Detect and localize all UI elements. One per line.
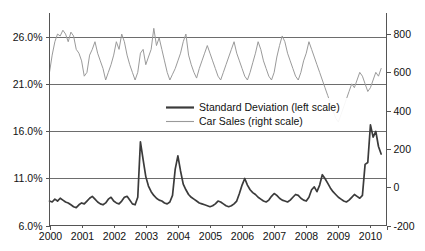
right-axis-tick-label: 800 [394, 28, 412, 40]
legend-label-car-sales: Car Sales (right scale) [199, 115, 303, 127]
x-axis-tick-label: 2010 [359, 230, 383, 242]
x-axis-tick-label: 2005 [199, 230, 223, 242]
chart-container: 6.0%11.0%16.0%21.0%26.0% -20002004006008… [0, 0, 425, 251]
x-axis-tick-label: 2007 [263, 230, 287, 242]
x-axis-tick-label: 2001 [71, 230, 95, 242]
right-axis-tick-label: 200 [394, 143, 412, 155]
right-axis-tick-label: 400 [394, 105, 412, 117]
x-axis-tick-label: 2004 [167, 230, 191, 242]
dual-axis-line-chart: 6.0%11.0%16.0%21.0%26.0% -20002004006008… [0, 0, 425, 251]
left-axis-tick-label: 26.0% [13, 31, 43, 43]
x-axis-tick-label: 2003 [135, 230, 159, 242]
right-axis-tick-label: 600 [394, 66, 412, 78]
x-axis-tick-label: 2000 [39, 230, 63, 242]
right-axis-tick-label: -200 [394, 220, 415, 232]
legend: Standard Deviation (left scale) Car Sale… [160, 98, 350, 128]
x-axis-labels-group: 2000200120022003200420052006200720082009… [39, 230, 383, 242]
x-axis-tick-label: 2002 [103, 230, 127, 242]
x-axis-tick-label: 2006 [231, 230, 255, 242]
legend-label-standard-deviation: Standard Deviation (left scale) [199, 101, 340, 113]
right-axis-tick-label: 0 [394, 181, 400, 193]
x-axis-tick-label: 2008 [295, 230, 319, 242]
x-axis-tick-label: 2009 [327, 230, 351, 242]
left-axis-tick-label: 21.0% [13, 78, 43, 90]
left-axis-tick-label: 16.0% [13, 125, 43, 137]
left-axis-tick-label: 11.0% [14, 172, 43, 184]
